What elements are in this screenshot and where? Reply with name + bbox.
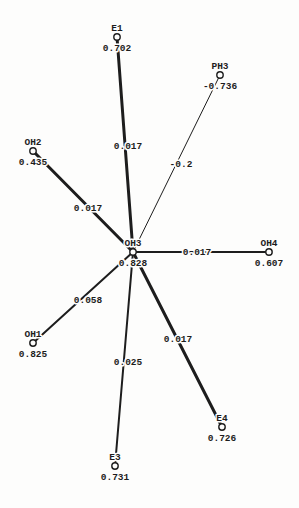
node-E3-label: E3 [109,452,121,463]
edge-OH3-OH2 [33,151,133,252]
edge-label-OH3-E4: 0.017 [164,334,193,345]
node-E1-value: 0.702 [103,43,132,54]
node-E4-circle [219,424,225,430]
node-OH2-label: OH2 [24,137,41,148]
node-OH3-label: OH3 [124,238,141,249]
node-PH3-value: -0.736 [203,81,238,92]
node-OH4-value: 0.607 [255,258,284,269]
node-E4-value: 0.726 [208,433,237,444]
edge-label-OH3-OH1: 0.058 [74,295,103,306]
diagram-page: 0.017-0.20.0170.0170.0580.0250.017E10.70… [0,0,299,508]
network-diagram: 0.017-0.20.0170.0170.0580.0250.017E10.70… [0,0,299,508]
node-E1-label: E1 [111,23,123,34]
node-E4-label: E4 [216,413,228,424]
node-OH4-label: OH4 [260,238,277,249]
edge-label-OH3-OH4: 0.017 [183,247,212,258]
node-E1-circle [114,34,120,40]
node-OH2-circle [30,148,36,154]
node-PH3-label: PH3 [211,61,228,72]
node-OH1-value: 0.825 [19,349,48,360]
edge-label-OH3-PH3: -0.2 [170,159,193,170]
edge-label-OH3-E1: 0.017 [114,141,143,152]
node-E3-circle [112,463,118,469]
node-OH3-value: 0.828 [119,258,148,269]
edge-label-OH3-E3: 0.025 [114,357,143,368]
edge-label-OH3-OH2: 0.017 [74,203,103,214]
node-OH3-circle [130,249,136,255]
node-E3-value: 0.731 [101,472,130,483]
node-OH4-circle [266,249,272,255]
node-PH3-circle [217,72,223,78]
node-OH1-label: OH1 [24,329,41,340]
node-OH1-circle [30,340,36,346]
node-OH2-value: 0.435 [19,157,48,168]
